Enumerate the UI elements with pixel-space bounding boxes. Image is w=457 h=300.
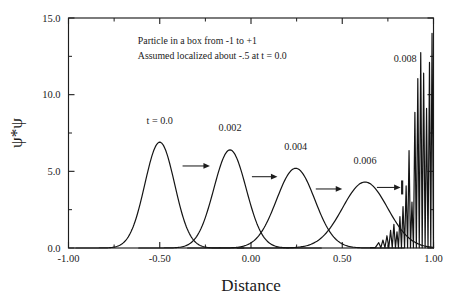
- chart-figure: -1.00-0.500.000.501.000.05.010.015.0Dist…: [0, 0, 457, 300]
- transition-arrowhead: [336, 186, 343, 192]
- curve-t-0-0: [76, 142, 244, 248]
- curve-label: 0.008: [394, 53, 417, 64]
- x-tick-label: 0.50: [333, 253, 351, 264]
- x-tick-label: 0.00: [242, 253, 260, 264]
- x-tick-label: 1.00: [424, 253, 442, 264]
- transition-arrowhead: [271, 174, 278, 180]
- x-axis-title: Distance: [221, 276, 280, 295]
- curve-0-008: [371, 33, 434, 247]
- x-tick-label: -0.50: [149, 253, 171, 264]
- y-tick-label: 0.0: [47, 243, 60, 254]
- curve-label: t = 0.0: [147, 115, 173, 126]
- curve-label: 0.002: [219, 122, 242, 133]
- curve-0-004: [188, 168, 404, 248]
- y-tick-label: 10.0: [42, 89, 60, 100]
- transition-arrowhead: [394, 185, 401, 191]
- y-tick-label: 5.0: [47, 166, 60, 177]
- y-tick-label: 15.0: [42, 13, 60, 24]
- curve-0-002: [139, 150, 322, 248]
- figure-annotation: Particle in a box from -1 to +1: [138, 35, 257, 46]
- transition-arrowhead: [203, 163, 210, 169]
- plot-svg: -1.00-0.500.000.501.000.05.010.015.0Dist…: [0, 0, 457, 300]
- curve-label: 0.006: [354, 155, 377, 166]
- x-tick-label: -1.00: [58, 253, 80, 264]
- curve-label: 0.004: [284, 141, 307, 152]
- figure-annotation: Assumed localized about -.5 at t = 0.0: [138, 50, 287, 61]
- y-axis-title: ψ*ψ: [7, 118, 26, 148]
